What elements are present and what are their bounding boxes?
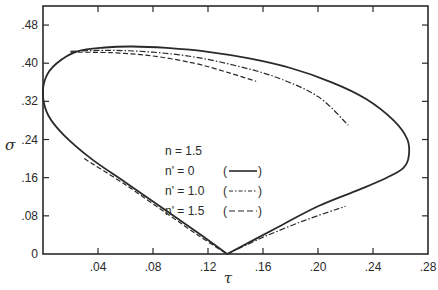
legend-paren-open: ( bbox=[223, 164, 227, 178]
legend-paren-close: ) bbox=[258, 164, 262, 178]
y-tick-label: 0 bbox=[31, 247, 38, 261]
legend-paren-close: ) bbox=[258, 184, 262, 198]
plot-border bbox=[43, 6, 428, 254]
series-n-1-0-lower bbox=[227, 206, 345, 254]
axis-ticks: .04.08.12.16.20.24.280.08.16.24.32.40.48 bbox=[21, 6, 436, 274]
y-axis-label: σ bbox=[5, 136, 16, 154]
legend-header: n = 1.5 bbox=[165, 144, 202, 158]
series-n-1-5 bbox=[71, 52, 257, 81]
plot-frame bbox=[43, 6, 428, 254]
x-tick-label: .28 bbox=[420, 260, 437, 274]
series-n-0 bbox=[43, 46, 409, 254]
legend-entry-label: n' = 1.0 bbox=[165, 184, 205, 198]
y-tick-label: .48 bbox=[21, 18, 38, 32]
x-axis-label: τ bbox=[224, 269, 233, 287]
y-tick-label: .40 bbox=[21, 56, 38, 70]
data-series bbox=[43, 46, 409, 254]
series-n-1-0 bbox=[71, 50, 349, 125]
legend-paren-close: ) bbox=[258, 204, 262, 218]
legend-entry-label: n' = 1.5 bbox=[165, 204, 205, 218]
x-tick-label: .24 bbox=[365, 260, 382, 274]
legend: n = 1.5n' = 0()n' = 1.0()n' = 1.5() bbox=[165, 144, 262, 218]
x-tick-label: .12 bbox=[200, 260, 217, 274]
y-tick-label: .08 bbox=[21, 209, 38, 223]
chart: .04.08.12.16.20.24.280.08.16.24.32.40.48… bbox=[0, 0, 438, 290]
series-n-1-5-lower bbox=[84, 159, 227, 254]
x-tick-label: .08 bbox=[145, 260, 162, 274]
legend-paren-open: ( bbox=[223, 184, 227, 198]
x-tick-label: .16 bbox=[255, 260, 272, 274]
x-tick-label: .04 bbox=[90, 260, 107, 274]
y-tick-label: .16 bbox=[21, 171, 38, 185]
x-tick-label: .20 bbox=[310, 260, 327, 274]
legend-entry-label: n' = 0 bbox=[165, 164, 195, 178]
y-tick-label: .32 bbox=[21, 94, 38, 108]
y-tick-label: .24 bbox=[21, 133, 38, 147]
legend-paren-open: ( bbox=[223, 204, 227, 218]
